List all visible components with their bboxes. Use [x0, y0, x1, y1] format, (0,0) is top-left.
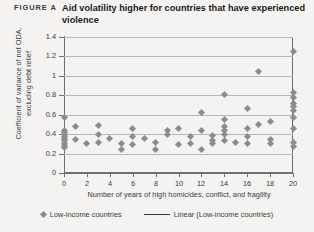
y-axis-tick: [59, 154, 64, 155]
y-axis-tick: [59, 37, 64, 38]
plot-frame: [64, 37, 293, 173]
x-axis-tick: [201, 173, 202, 177]
gridline: [64, 76, 293, 77]
x-axis-title: Number of years of high homicides, confl…: [64, 190, 294, 199]
trend-line-icon: [144, 214, 170, 215]
y-axis-title: Coefficient of variance of net ODA, excl…: [14, 21, 33, 147]
y-axis-tick: [59, 56, 64, 57]
legend-item-trendline: Linear (Low-income countries): [144, 210, 273, 219]
x-axis-tick-label: 4: [100, 179, 120, 188]
y-axis-tick-label: 0.2: [16, 150, 56, 158]
x-axis-tick: [156, 173, 157, 177]
x-axis-tick-label: 0: [54, 179, 74, 188]
x-axis-tick: [133, 173, 134, 177]
y-axis-tick-label: 0: [16, 169, 56, 177]
gridline: [64, 95, 293, 96]
x-axis-tick-label: 2: [77, 179, 97, 188]
figure-header: FIGURE A Aid volatility higher for count…: [0, 0, 314, 32]
legend-label-trendline: Linear (Low-income countries): [174, 210, 273, 219]
gridline: [64, 56, 293, 57]
gridline: [64, 154, 293, 155]
diamond-marker-icon: [40, 210, 47, 217]
x-axis-tick: [293, 173, 294, 177]
y-axis-tick: [59, 95, 64, 96]
legend-label-scatter: Low-income countries: [50, 210, 122, 219]
figure-title: Aid volatility higher for countries that…: [62, 2, 306, 26]
x-axis-tick: [87, 173, 88, 177]
figure-tag: FIGURE A: [14, 3, 57, 12]
x-axis-tick-label: 12: [191, 179, 211, 188]
gridline: [64, 115, 293, 116]
x-axis-tick: [64, 173, 65, 177]
legend-item-scatter: Low-income countries: [41, 210, 122, 219]
x-axis-tick-label: 10: [169, 179, 189, 188]
x-axis-tick: [270, 173, 271, 177]
x-axis-tick: [224, 173, 225, 177]
x-axis-tick: [110, 173, 111, 177]
figure-panel: FIGURE A Aid volatility higher for count…: [0, 0, 314, 232]
x-axis-tick-label: 20: [283, 179, 303, 188]
x-axis-tick-label: 6: [123, 179, 143, 188]
x-axis-tick-label: 16: [237, 179, 257, 188]
gridline: [64, 37, 293, 38]
x-axis-tick: [247, 173, 248, 177]
y-axis-tick: [59, 76, 64, 77]
chart-legend: Low-income countries Linear (Low-income …: [0, 206, 314, 222]
x-axis-tick: [179, 173, 180, 177]
x-axis-tick-label: 18: [260, 179, 280, 188]
x-axis-tick-label: 14: [214, 179, 234, 188]
x-axis-tick-label: 8: [146, 179, 166, 188]
